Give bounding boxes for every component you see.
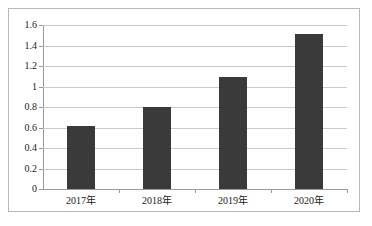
y-axis-tick-mark (39, 169, 43, 170)
y-axis-tick-label: 0.6 (11, 123, 37, 133)
y-axis-tick-label: 1.4 (11, 41, 37, 51)
y-axis-tick-mark (39, 46, 43, 47)
x-axis-tick-mark (119, 189, 120, 193)
y-axis-tick-label: 1.6 (11, 20, 37, 30)
plot-area (43, 25, 347, 189)
y-axis-tick-labels: 00.20.40.60.811.21.41.6 (9, 9, 37, 211)
y-axis-tick-mark (39, 66, 43, 67)
gridline (43, 25, 347, 26)
x-axis-tick-mark (347, 189, 348, 193)
bar[interactable] (67, 126, 95, 189)
y-axis-tick-mark (39, 87, 43, 88)
chart-frame: 00.20.40.60.811.21.41.6 2017年2018年2019年2… (8, 8, 360, 212)
x-axis-tick-label: 2020年 (271, 195, 347, 207)
x-axis-tick-mark (195, 189, 196, 193)
y-axis-tick-mark (39, 148, 43, 149)
y-axis-tick-label: 0 (11, 184, 37, 194)
y-axis-tick-mark (39, 107, 43, 108)
y-axis-tick-mark (39, 25, 43, 26)
bar[interactable] (219, 77, 247, 189)
bar[interactable] (143, 107, 171, 189)
y-axis-tick-label: 1.2 (11, 61, 37, 71)
y-axis-tick-mark (39, 189, 43, 190)
x-axis-tick-label: 2018年 (119, 195, 195, 207)
y-axis-tick-mark (39, 128, 43, 129)
x-axis-tick-mark (271, 189, 272, 193)
bar[interactable] (295, 34, 323, 189)
y-axis-tick-label: 0.4 (11, 143, 37, 153)
y-axis-tick-label: 0.8 (11, 102, 37, 112)
y-axis-tick-label: 0.2 (11, 164, 37, 174)
x-axis-tick-label: 2017年 (43, 195, 119, 207)
y-axis-tick-label: 1 (11, 82, 37, 92)
x-axis-tick-label: 2019年 (195, 195, 271, 207)
